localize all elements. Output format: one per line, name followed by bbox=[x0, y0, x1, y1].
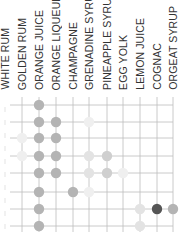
matrix-dot bbox=[34, 168, 44, 178]
matrix-dot bbox=[34, 100, 44, 110]
matrix-dot bbox=[51, 151, 61, 161]
matrix-dot bbox=[17, 151, 27, 161]
matrix-dot bbox=[118, 168, 128, 178]
matrix-dot bbox=[68, 187, 78, 197]
matrix-dot bbox=[34, 117, 44, 127]
matrix-grid bbox=[0, 0, 187, 240]
matrix-dot bbox=[152, 204, 162, 214]
matrix-dot bbox=[34, 187, 44, 197]
matrix-dot bbox=[17, 133, 27, 143]
matrix-dot bbox=[135, 221, 145, 231]
matrix-dot bbox=[84, 151, 94, 161]
matrix-dot bbox=[34, 204, 44, 214]
matrix-dot bbox=[84, 117, 94, 127]
matrix-dot bbox=[168, 204, 178, 214]
matrix-dot bbox=[102, 168, 112, 178]
matrix-dot bbox=[51, 117, 61, 127]
matrix-dot bbox=[34, 151, 44, 161]
matrix-dot bbox=[84, 187, 94, 197]
matrix-dot bbox=[51, 133, 61, 143]
matrix-dot bbox=[135, 204, 145, 214]
matrix-dot bbox=[84, 168, 94, 178]
matrix-dot bbox=[102, 151, 112, 161]
matrix-dot bbox=[51, 168, 61, 178]
matrix-dot bbox=[34, 133, 44, 143]
matrix-dot bbox=[34, 221, 44, 231]
